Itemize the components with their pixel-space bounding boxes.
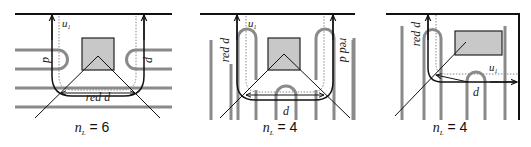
- hairpin-right: [316, 29, 334, 120]
- hairpin-left: [238, 29, 256, 120]
- caption-nL-6: nL = 6: [75, 119, 110, 137]
- label-red-d: red d: [409, 21, 423, 47]
- label-red-d: red d: [86, 90, 112, 104]
- label-u1: u1: [489, 61, 498, 74]
- label-red-d-right: red d: [337, 38, 351, 64]
- label-d: d: [283, 104, 290, 118]
- caption-nL-4: nL = 4: [433, 119, 468, 137]
- panel-3: u1 red d d nL = 4: [354, 14, 519, 137]
- label-d-left: d: [40, 57, 54, 64]
- caption-nL-4: nL = 4: [263, 119, 298, 137]
- obstacle-block: [82, 38, 114, 70]
- routing-diagram-figure: u1 d d red d nL = 6: [0, 0, 531, 147]
- label-u1: u1: [248, 17, 257, 30]
- label-d: d: [473, 85, 480, 99]
- wire-loop-right: [127, 50, 137, 69]
- hairpin-left: [424, 30, 441, 121]
- label-red-d-left: red d: [218, 37, 232, 63]
- label-u1: u1: [62, 17, 71, 30]
- panel-2: u1 red d red d d nL = 4: [200, 14, 355, 137]
- panel-1: u1 d d red d nL = 6: [15, 14, 172, 137]
- label-d-right: d: [141, 56, 155, 63]
- obstacle-block: [455, 31, 502, 55]
